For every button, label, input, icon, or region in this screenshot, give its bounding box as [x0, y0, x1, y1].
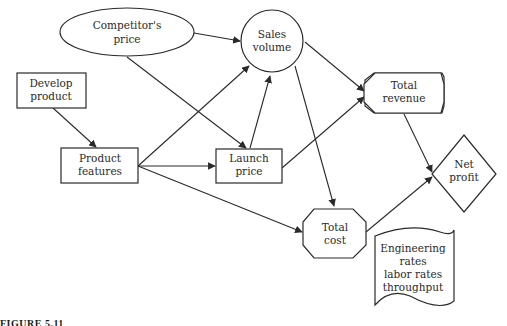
node-competitors-price: Competitor's price — [60, 8, 194, 56]
node-label: Launch — [229, 152, 269, 164]
node-net-profit: Net profit — [432, 135, 496, 212]
node-label: price — [113, 33, 140, 45]
node-label: profit — [449, 171, 479, 183]
node-label: Competitor's — [93, 19, 162, 31]
node-product-features: Product features — [61, 148, 138, 183]
edge-sales-to-cost — [295, 66, 334, 206]
node-develop-product: Develop product — [17, 73, 86, 108]
node-label: Net — [454, 158, 474, 170]
edge-competitor-to-sales — [194, 33, 240, 41]
node-total-cost: Total cost — [303, 209, 366, 258]
influence-diagram: Competitor's price Sales volume Develop … — [0, 0, 507, 326]
figure-caption: FIGURE 5.11 — [0, 317, 64, 326]
edge-revenue-to-profit — [404, 114, 432, 172]
node-label: features — [78, 165, 122, 177]
edge-competitor-to-launch — [127, 57, 246, 148]
edge-develop-to-features — [53, 108, 96, 147]
node-label: Sales — [258, 28, 286, 40]
node-label: Total — [322, 221, 349, 233]
node-cost-data-document: Engineering rates labor rates throughput — [375, 228, 454, 306]
node-total-revenue: Total revenue — [364, 73, 444, 113]
edge-cost-to-profit — [366, 177, 432, 232]
edges — [53, 33, 432, 232]
node-label: Total — [391, 79, 418, 91]
edge-launch-to-revenue — [282, 97, 364, 168]
edge-launch-to-sales — [250, 76, 270, 148]
node-label: Engineering — [380, 242, 446, 254]
node-sales-volume: Sales volume — [241, 10, 303, 72]
node-label: cost — [324, 234, 347, 246]
node-label: volume — [252, 41, 292, 53]
node-label: rates — [399, 255, 426, 267]
node-label: throughput — [383, 281, 444, 293]
node-label: Product — [79, 152, 122, 164]
node-label: Develop — [29, 77, 72, 89]
node-label: product — [30, 90, 72, 102]
node-label: revenue — [382, 92, 425, 104]
edge-sales-to-revenue — [305, 42, 364, 91]
node-label: labor rates — [384, 268, 442, 280]
node-launch-price: Launch price — [216, 149, 282, 183]
node-label: price — [235, 165, 262, 177]
